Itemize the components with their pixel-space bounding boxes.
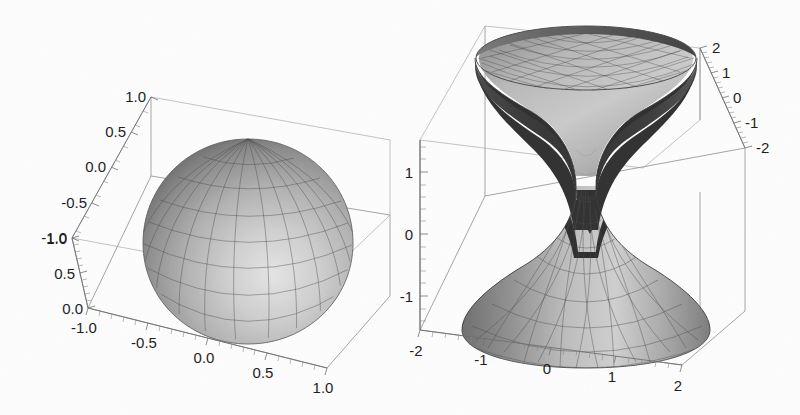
sphere-plot-panel: 1.0 0.5 0.0 -0.5 -1.0 — [0, 0, 400, 415]
sphere-plot-svg: 1.0 0.5 0.0 -0.5 -1.0 — [0, 0, 400, 415]
hyperboloid-y-tick-4: -2 — [756, 139, 769, 156]
hyperboloid-y-tick-2: 0 — [733, 89, 741, 106]
hyperboloid-y-tick-0: 2 — [712, 39, 720, 56]
hyperboloid-x-tick-3: 1 — [608, 368, 616, 385]
sphere-y-axis: 1.0 0.5 0.0 -0.5 -1.0 — [41, 88, 158, 246]
hyperboloid-x-tick-0: -2 — [409, 342, 422, 359]
figure-container: 1.0 0.5 0.0 -0.5 -1.0 — [0, 0, 800, 415]
hyperboloid-y-tick-1: 1 — [722, 64, 730, 81]
sphere-y-tick-1: 0.5 — [105, 123, 126, 140]
sphere-y-tick-3: -0.5 — [61, 194, 87, 211]
hyperboloid-z-tick-1: 0 — [405, 226, 413, 243]
sphere-z-tick-2: 0.0 — [62, 300, 83, 317]
sphere-surface — [143, 139, 353, 344]
hyperboloid-x-tick-4: 2 — [674, 377, 682, 394]
sphere-x-tick-3: 0.5 — [253, 364, 274, 381]
hyperboloid-z-tick-2: -1 — [400, 288, 413, 305]
hyperboloid-y-axis: 2 1 0 -1 -2 — [700, 39, 769, 156]
hyperboloid-x-tick-2: 0 — [543, 360, 551, 377]
hyperboloid-y-tick-3: -1 — [745, 114, 758, 131]
hyperboloid-plot-svg: 2 1 0 -1 -2 — [400, 0, 800, 415]
sphere-x-tick-1: -0.5 — [131, 334, 157, 351]
hyperboloid-z-axis: 1 0 -1 — [400, 140, 428, 330]
hyperboloid-x-tick-1: -1 — [474, 351, 487, 368]
hyperboloid-z-tick-0: 1 — [405, 164, 413, 181]
sphere-x-tick-4: 1.0 — [313, 379, 334, 396]
sphere-z-axis: 1.0 0.5 0.0 — [46, 230, 95, 317]
sphere-z-tick-0: 1.0 — [46, 230, 67, 247]
sphere-z-tick-1: 0.5 — [54, 265, 75, 282]
sphere-y-tick-0: 1.0 — [125, 88, 146, 105]
sphere-x-tick-0: -1.0 — [71, 319, 97, 336]
hyperboloid-plot-panel: 2 1 0 -1 -2 — [400, 0, 800, 415]
sphere-x-tick-2: 0.0 — [194, 349, 215, 366]
sphere-y-tick-2: 0.0 — [85, 158, 106, 175]
